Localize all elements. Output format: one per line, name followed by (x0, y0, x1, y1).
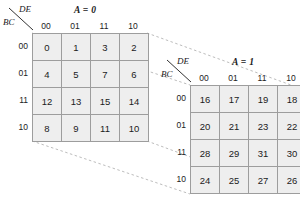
kmap-a1-cell-r1c0[interactable]: 20 (191, 113, 219, 139)
kmap-a1-row-header-0: 00 (168, 93, 186, 103)
kmap-a0-cell-r0c0[interactable]: 0 (33, 34, 61, 60)
kmap-a1-col-header-0: 00 (190, 73, 218, 83)
kmap-a0-col-var-label: DE (19, 4, 31, 14)
kmap-a1-cell-r2c0[interactable]: 28 (191, 140, 219, 166)
kmap-a1-col-var-label: DE (177, 56, 189, 66)
kmap-a0-cell-r2c3[interactable]: 14 (120, 88, 148, 114)
kmap-a0-row-header-1: 01 (10, 68, 28, 78)
kmap-a0-cell-r1c3[interactable]: 6 (120, 61, 148, 87)
kmap-a1-col-header-1: 01 (219, 73, 247, 83)
kmap-a1-cell-r2c2[interactable]: 31 (249, 140, 277, 166)
kmap-a0-col-header-1: 01 (61, 21, 89, 31)
kmap-a1-grid: 16 17 19 18 20 21 23 22 28 29 31 30 24 2… (190, 85, 300, 194)
kmap-a0-cell-r2c2[interactable]: 15 (91, 88, 119, 114)
kmap-a0-row-header-3: 10 (10, 122, 28, 132)
kmap-a0-col-header-3: 10 (119, 21, 147, 31)
kmap-a1-cell-r0c1[interactable]: 17 (220, 86, 248, 112)
kmap-a0-row-header-2: 11 (10, 95, 28, 105)
kmap-a0-cell-r0c3[interactable]: 2 (120, 34, 148, 60)
kmap-a0-col-header-0: 00 (32, 21, 60, 31)
kmap-a1-title: A = 1 (232, 57, 254, 67)
kmap-a0-cell-r1c1[interactable]: 5 (62, 61, 90, 87)
kmap-a1-cell-r3c1[interactable]: 25 (220, 167, 248, 193)
kmap-a1-cell-r2c1[interactable]: 29 (220, 140, 248, 166)
kmap-a1-row-header-3: 10 (168, 174, 186, 184)
kmap-a0-cell-r2c1[interactable]: 13 (62, 88, 90, 114)
kmap-a0-cell-r1c0[interactable]: 4 (33, 61, 61, 87)
kmap-a0-title: A = 0 (74, 5, 96, 15)
kmap-a0-cell-r3c2[interactable]: 11 (91, 115, 119, 141)
kmap-a1-col-header-3: 10 (277, 73, 300, 83)
kmap-a0-cell-r3c1[interactable]: 9 (62, 115, 90, 141)
kmap-a1-cell-r1c3[interactable]: 22 (278, 113, 300, 139)
kmap-a1-cell-r3c0[interactable]: 24 (191, 167, 219, 193)
kmap-a0-row-header-0: 00 (10, 41, 28, 51)
kmap-a0-grid: 0 1 3 2 4 5 7 6 12 13 15 14 8 9 11 10 (32, 33, 149, 142)
kmap-a0-cell-r3c0[interactable]: 8 (33, 115, 61, 141)
kmap-a1-cell-r0c0[interactable]: 16 (191, 86, 219, 112)
kmap-a1-cell-r2c3[interactable]: 30 (278, 140, 300, 166)
kmap-a0-cell-r1c2[interactable]: 7 (91, 61, 119, 87)
kmap-a0-row-var-label: BC (3, 17, 15, 27)
kmap-a1-cell-r1c1[interactable]: 21 (220, 113, 248, 139)
kmap-a1-cell-r1c2[interactable]: 23 (249, 113, 277, 139)
kmap-a0-cell-r3c3[interactable]: 10 (120, 115, 148, 141)
kmap-a1-row-header-1: 01 (168, 120, 186, 130)
kmap-a1-cell-r0c3[interactable]: 18 (278, 86, 300, 112)
kmap-a1-row-header-2: 11 (168, 147, 186, 157)
kmap-a0-col-header-2: 11 (90, 21, 118, 31)
kmap-a0-cell-r0c1[interactable]: 1 (62, 34, 90, 60)
kmap-a0-cell-r2c0[interactable]: 12 (33, 88, 61, 114)
kmap-a1-col-header-2: 11 (248, 73, 276, 83)
kmap-a1-cell-r3c3[interactable]: 26 (278, 167, 300, 193)
karnaugh-map-figure: A = 0 DE BC 00 01 11 10 00 01 11 10 0 1 … (0, 0, 300, 202)
kmap-a1-cell-r3c2[interactable]: 27 (249, 167, 277, 193)
kmap-a1-cell-r0c2[interactable]: 19 (249, 86, 277, 112)
kmap-a1-row-var-label: BC (161, 69, 173, 79)
kmap-a0-cell-r0c2[interactable]: 3 (91, 34, 119, 60)
